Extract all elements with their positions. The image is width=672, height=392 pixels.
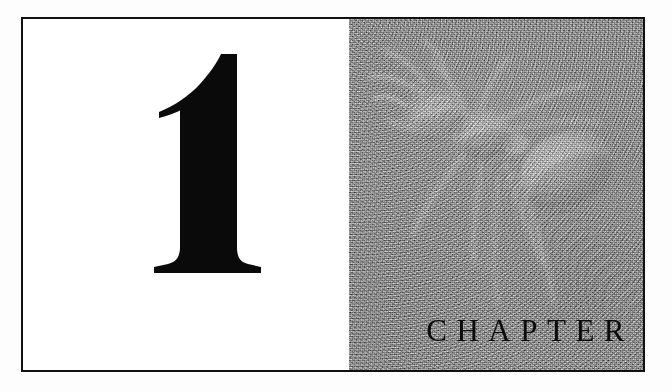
- chapter-label: CHAPTER: [426, 315, 634, 346]
- chapter-number-numeral: 1: [141, 51, 271, 281]
- chapter-photo-panel: CHAPTER: [349, 19, 643, 370]
- page-background: 1: [0, 0, 672, 392]
- chapter-opening-plate: 1: [21, 17, 645, 372]
- chapter-number-panel: 1: [23, 19, 349, 370]
